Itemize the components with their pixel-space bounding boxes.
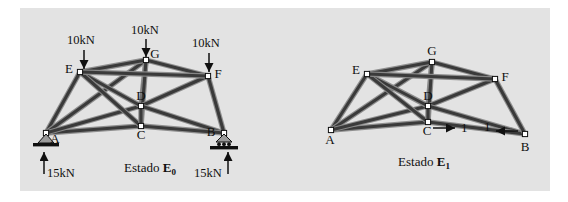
caption-text-E0: Estado (124, 160, 163, 175)
node-label-G: G (150, 46, 159, 61)
caption-E0: Estado E0 (124, 160, 176, 177)
node-label-F: F (214, 66, 221, 81)
node-label-G: G (427, 43, 436, 58)
truss-joint-D (138, 103, 143, 108)
caption-symbol-E1: E (437, 154, 446, 169)
node-label-C: C (137, 127, 146, 142)
node-label-E: E (352, 62, 360, 77)
truss-member-DF (141, 76, 208, 106)
support-roller-B-roller-0 (217, 142, 221, 146)
support-roller-B-base (210, 146, 238, 149)
truss-member-DF (428, 79, 495, 106)
truss-members-group (46, 60, 525, 134)
node-label-A: A (325, 132, 335, 147)
support-roller-B-roller-1 (222, 142, 226, 146)
node-label-B: B (521, 139, 530, 154)
load-E-label: 10kN (67, 33, 95, 47)
node-label-E: E (65, 61, 73, 76)
reaction-B-label: 15kN (194, 166, 222, 180)
unit-load-C-label: 1 (461, 120, 468, 135)
truss-joint-G (143, 57, 148, 62)
caption-subscript-E1: 1 (445, 161, 450, 171)
load-G-label: 10kN (131, 23, 159, 37)
caption-E1: Estado E1 (398, 154, 450, 171)
node-label-F: F (501, 69, 508, 84)
node-label-A: A (50, 131, 60, 146)
truss-joint-D (425, 103, 430, 108)
truss-joint-B (522, 131, 527, 136)
truss-svg: ABCDEFG10kN10kN10kN15kN15kNEstado E0ABCD… (0, 0, 568, 202)
node-label-C: C (423, 123, 432, 138)
figure-root: ABCDEFG10kN10kN10kN15kN15kNEstado E0ABCD… (0, 0, 568, 202)
truss-labels-group: ABCDEFG10kN10kN10kN15kN15kNEstado E0ABCD… (47, 23, 530, 180)
truss-joint-F (205, 73, 210, 78)
load-F-label: 10kN (192, 36, 220, 50)
truss-joint-F (492, 76, 497, 81)
truss-joint-E (77, 69, 82, 74)
node-label-D: D (423, 88, 432, 103)
caption-text-E1: Estado (398, 154, 437, 169)
node-label-B: B (207, 124, 216, 139)
reaction-A-label: 15kN (47, 166, 75, 180)
caption-subscript-E0: 0 (171, 167, 176, 177)
caption-symbol-E0: E (163, 160, 172, 175)
truss-canvas: ABCDEFG10kN10kN10kN15kN15kNEstado E0ABCD… (0, 0, 568, 202)
support-roller-B-roller-2 (227, 142, 231, 146)
truss-joint-E (364, 71, 369, 76)
unit-load-B-label: 1 (484, 119, 491, 134)
truss-joint-G (429, 59, 434, 64)
node-label-D: D (136, 88, 145, 103)
